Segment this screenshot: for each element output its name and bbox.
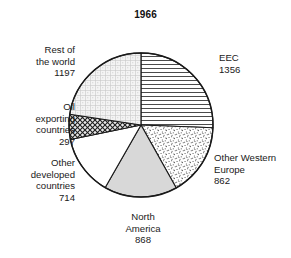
label-text-line: Rest of (36, 44, 75, 56)
label-text-line: exporting (36, 113, 75, 125)
label-value: 868 (100, 234, 186, 246)
label-text-line: the world (36, 56, 75, 68)
slice-label-north-america: North America 868 (100, 211, 186, 246)
slice-label-eec: EEC 1356 (219, 52, 240, 75)
label-text-line: developed (31, 169, 75, 181)
slice-label-other-western-europe: Other Western Europe 862 (214, 152, 276, 187)
label-value: 1356 (219, 64, 240, 76)
label-value: 1197 (36, 67, 75, 79)
pie-slice-rest-of-the-world[interactable] (70, 53, 141, 125)
slice-label-oil-exporting-countries: Oil exporting countries 297 (36, 101, 75, 147)
pie-slices-group (69, 53, 213, 197)
label-text-line: Other (31, 157, 75, 169)
label-text-line: Other Western (214, 152, 276, 164)
label-value: 862 (214, 175, 276, 187)
label-text-line: countries (31, 180, 75, 192)
label-text-line: EEC (219, 52, 240, 64)
label-text-line: Oil (36, 101, 75, 113)
slice-label-other-developed-countries: Other developed countries 714 (31, 157, 75, 203)
label-value: 714 (31, 192, 75, 204)
slice-label-rest-of-the-world: Rest of the world 1197 (36, 44, 75, 79)
label-text-line: America (100, 223, 186, 235)
label-value: 297 (36, 136, 75, 148)
pie-chart-figure: 1966 (0, 0, 291, 258)
label-text-line: countries (36, 124, 75, 136)
label-text-line: North (100, 211, 186, 223)
label-text-line: Europe (214, 164, 276, 176)
pie-slice-eec[interactable] (141, 53, 213, 128)
